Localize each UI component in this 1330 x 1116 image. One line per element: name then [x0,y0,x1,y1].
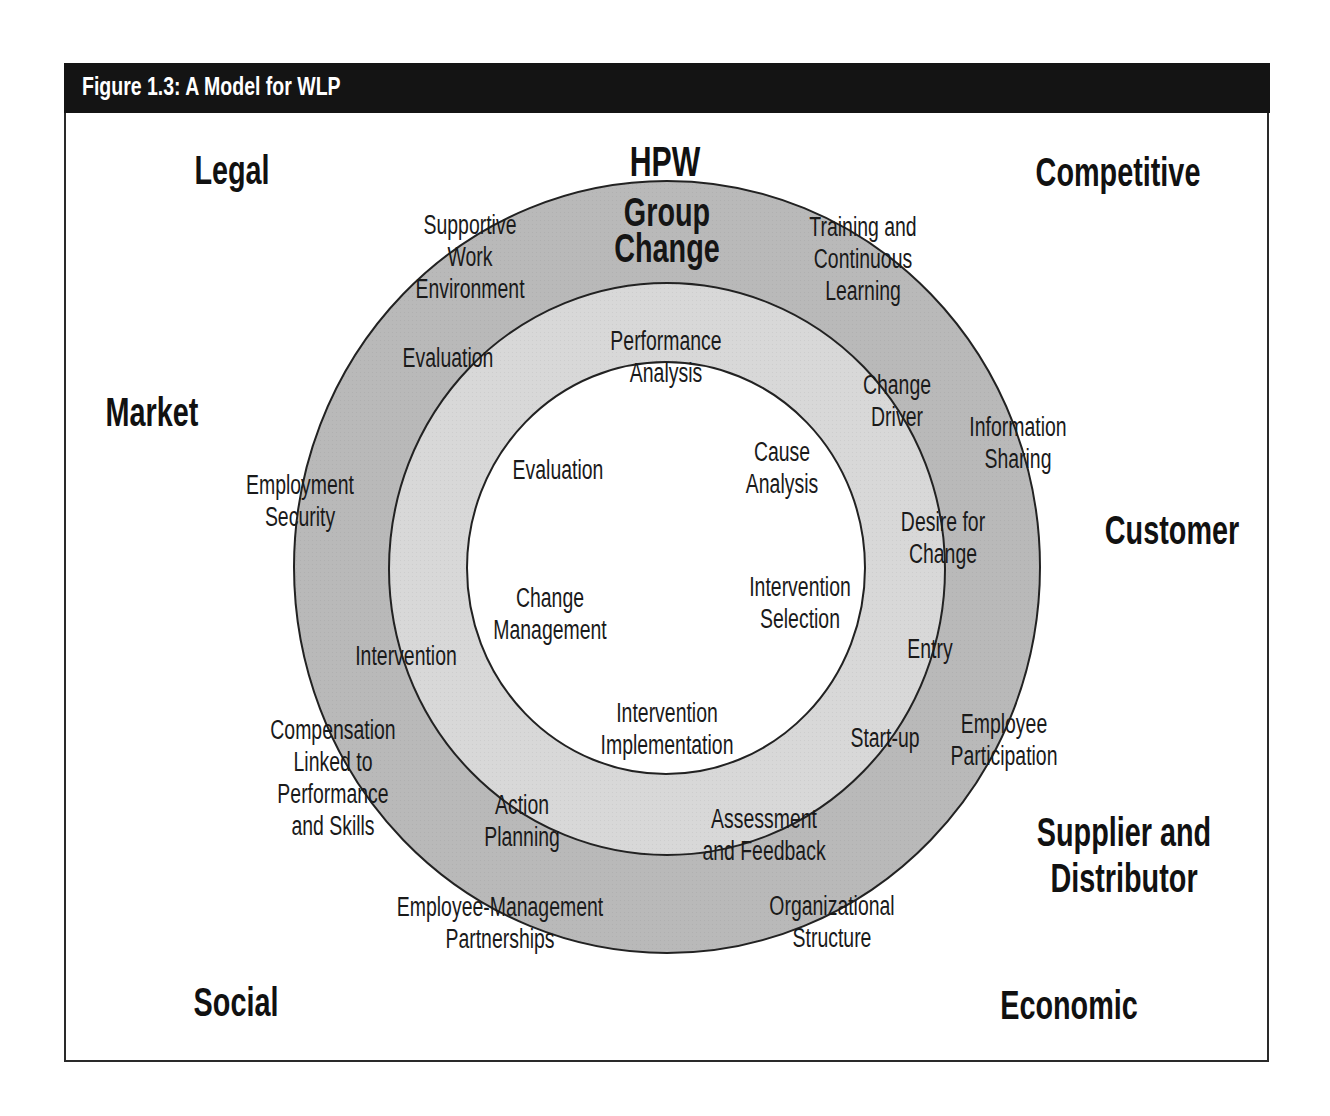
text-line: and Skills [270,810,395,842]
inner-evaluation: Evaluation [513,454,604,486]
text-line: Assessment [702,803,825,835]
factor-economic: Economic [1000,985,1138,1025]
middle-action-planning: Action Planning [484,789,560,853]
factor-legal: Legal [194,150,269,190]
text-line: Employment [246,469,354,501]
text-line: Structure [769,922,894,954]
text-line: Performance [610,325,721,357]
text-line: Management [493,614,606,646]
text-line: Continuous [809,243,916,275]
middle-intervention: Intervention [355,640,457,672]
text-line: Change [493,582,606,614]
outer-employee-management-partnerships: Employee-Management Partnerships [397,891,603,955]
outer-training-learning: Training and Continuous Learning [809,211,916,307]
text-line: Cause [746,436,818,468]
inner-intervention-implementation: Intervention Implementation [601,697,734,761]
text-line: Implementation [601,729,734,761]
text-line: Employee-Management [397,891,603,923]
text-line: Employee [951,708,1058,740]
inner-cause-analysis: Cause Analysis [746,436,818,500]
middle-entry: Entry [907,633,952,665]
middle-assessment-feedback: Assessment and Feedback [702,803,825,867]
text-line: Participation [951,740,1058,772]
text-line: Security [246,501,354,533]
text-line: Action [484,789,560,821]
outer-information-sharing: Information Sharing [969,411,1066,475]
text-line: Analysis [746,468,818,500]
text-line: Analysis [610,357,721,389]
middle-desire-for-change: Desire for Change [901,506,985,570]
factor-social: Social [194,982,279,1022]
text-line: Intervention [749,571,851,603]
outer-compensation: Compensation Linked to Performance and S… [270,714,395,842]
label-group-change: Group Change [614,194,720,266]
text-line: Linked to [270,746,395,778]
inner-performance-analysis: Performance Analysis [610,325,721,389]
text-line: Training and [809,211,916,243]
text-line: Partnerships [397,923,603,955]
text-line: Intervention [601,697,734,729]
factor-customer: Customer [1105,510,1239,550]
outer-employment-security: Employment Security [246,469,354,533]
outer-employee-participation: Employee Participation [951,708,1058,772]
outer-supportive-work-environment: Supportive Work Environment [415,209,524,305]
text-line: Environment [415,273,524,305]
text-line: Performance [270,778,395,810]
label-hpw: HPW [630,143,701,181]
group-line2: Change [614,230,720,266]
factor-competitive: Competitive [1036,152,1201,192]
text-line: Desire for [901,506,985,538]
factor-supplier-line1: Supplier and [1037,809,1211,855]
text-line: Change [901,538,985,570]
middle-start-up: Start-up [850,722,919,754]
inner-intervention-selection: Intervention Selection [749,571,851,635]
outer-organizational-structure: Organizational Structure [769,890,894,954]
factor-supplier-distributor: Supplier and Distributor [1037,809,1211,901]
text-line: Learning [809,275,916,307]
text-line: Work [415,241,524,273]
text-line: Planning [484,821,560,853]
middle-change-driver: Change Driver [863,369,931,433]
text-line: Compensation [270,714,395,746]
text-line: Sharing [969,443,1066,475]
text-line: and Feedback [702,835,825,867]
group-line1: Group [614,194,720,230]
inner-change-management: Change Management [493,582,606,646]
text-line: Supportive [415,209,524,241]
text-line: Driver [863,401,931,433]
text-line: Selection [749,603,851,635]
middle-evaluation: Evaluation [403,342,494,374]
text-line: Change [863,369,931,401]
factor-supplier-line2: Distributor [1037,855,1211,901]
text-line: Information [969,411,1066,443]
factor-market: Market [106,392,199,432]
text-line: Organizational [769,890,894,922]
